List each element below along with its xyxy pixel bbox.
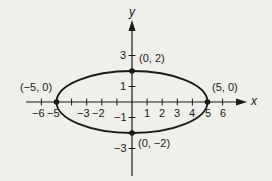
x-tick-label: −2: [92, 108, 105, 119]
x-tick-label: 6: [220, 108, 226, 119]
x-tick-label: 2: [159, 108, 165, 119]
point-label-5-0: (5, 0): [212, 82, 238, 93]
x-tick-label: 1: [144, 108, 150, 119]
x-tick-label: 5: [205, 108, 211, 119]
x-tick-label: 4: [189, 108, 195, 119]
point-label-neg5-0: (−5, 0): [20, 82, 52, 93]
point-neg5-0: [54, 99, 60, 105]
point-0-neg2: [129, 130, 135, 136]
x-axis-label: x: [251, 95, 257, 107]
point-label-0-neg2: (0, −2): [138, 138, 170, 149]
x-tick-label: −3: [77, 108, 90, 119]
point-5-0: [205, 99, 211, 105]
y-tick-label: −3: [114, 143, 127, 154]
x-tick-label: −5: [47, 108, 60, 119]
x-tick-label: −6: [32, 108, 45, 119]
ellipse-graph: y x −6 −5 −3 −2 1 2 3 4 5 6 3 1 −1 −3 (0…: [0, 0, 272, 181]
x-axis-arrow-icon: [236, 99, 247, 106]
y-tick-label: −1: [114, 112, 127, 123]
y-tick-label: 1: [120, 81, 126, 92]
y-axis-arrow-icon: [129, 20, 136, 31]
y-tick-label: 3: [120, 50, 126, 61]
y-axis-label: y: [129, 6, 135, 18]
point-label-0-2: (0, 2): [139, 53, 165, 64]
point-0-2: [129, 68, 135, 74]
x-tick-label: 3: [174, 108, 180, 119]
